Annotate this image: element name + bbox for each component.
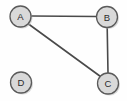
node-a-label: A xyxy=(17,11,24,22)
node-b[interactable]: B xyxy=(97,7,120,30)
node-c-label: C xyxy=(105,78,112,89)
node-d-label: D xyxy=(18,77,25,88)
edge-group xyxy=(29,16,109,77)
graph-svg: A B C D xyxy=(0,0,127,101)
edge-a-c xyxy=(29,24,101,77)
edge-b-c xyxy=(107,28,108,74)
node-d[interactable]: D xyxy=(11,72,34,95)
node-c[interactable]: C xyxy=(98,73,121,96)
node-a[interactable]: A xyxy=(10,6,33,29)
node-b-label: B xyxy=(104,12,110,23)
edge-a-b xyxy=(31,16,97,17)
graph-diagram-canvas: A B C D xyxy=(0,0,127,101)
